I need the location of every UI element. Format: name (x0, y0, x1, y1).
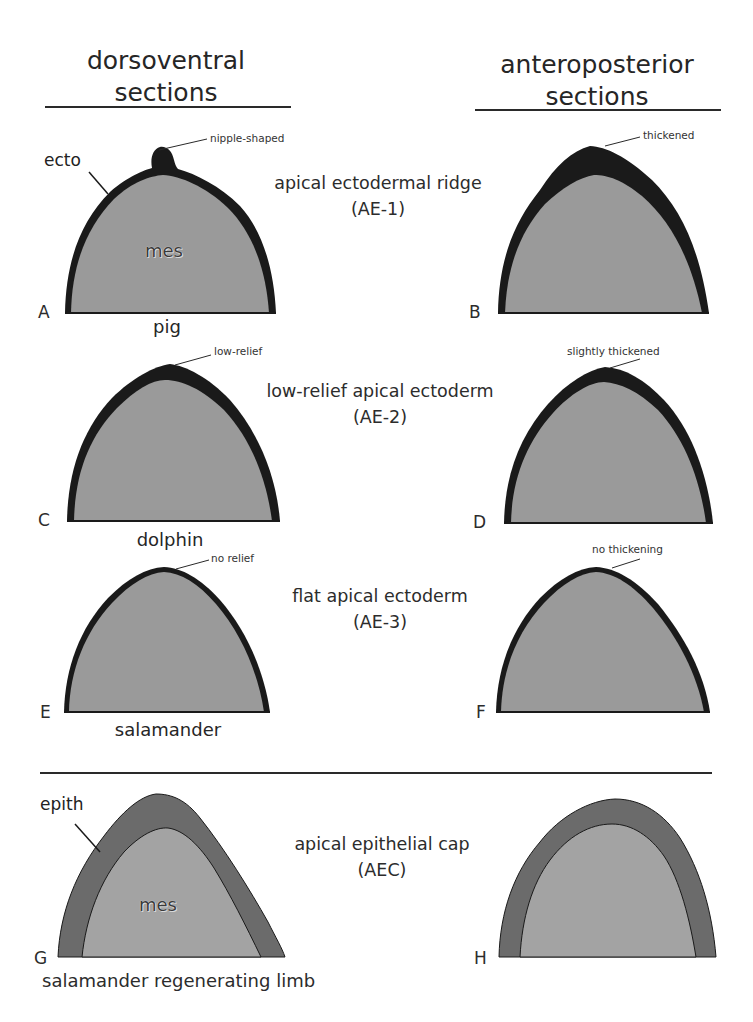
annotation-leader-epith (75, 824, 100, 852)
category-ae1-line2: (AE-1) (351, 201, 405, 219)
annotation-leader-low-relief (175, 355, 211, 365)
panel-h-limb-bud (499, 799, 716, 957)
annotation-leader-slightly-thickened (610, 359, 640, 368)
annotation-leader-thickened (605, 137, 640, 146)
category-ae3-line2: (AE-3) (353, 614, 407, 632)
annotation-nipple-shaped: nipple-shaped (210, 133, 284, 144)
limb-bud-ectoderm-figure: dorsoventral sections anteroposterior se… (0, 0, 753, 1022)
panel-letter-c: C (38, 512, 50, 529)
panel-a-limb-bud (65, 139, 276, 313)
annotation-leader-no-thickening (612, 559, 640, 568)
panel-b-limb-bud (498, 137, 709, 313)
annotation-leader-nipple (159, 139, 207, 150)
annotation-no-relief: no relief (211, 553, 254, 564)
species-label-dolphin: dolphin (137, 531, 204, 549)
category-ae2-line1: low-relief apical ectoderm (266, 383, 493, 401)
panel-letter-g: G (34, 950, 47, 967)
category-aec-line2: (AEC) (358, 862, 407, 880)
annotation-slightly-thickened: slightly thickened (567, 346, 660, 357)
header-right-line2: sections (545, 84, 648, 109)
header-left-line2: sections (114, 80, 217, 105)
annotation-thickened: thickened (643, 130, 694, 141)
tissue-label-ecto: ecto (44, 152, 81, 169)
panel-letter-b: B (469, 304, 481, 321)
category-ae3-line1: flat apical ectoderm (292, 588, 467, 606)
panel-letter-a: A (38, 304, 50, 321)
panel-f-limb-bud (496, 559, 710, 712)
panel-letter-d: D (473, 514, 486, 531)
panel-letter-h: H (474, 950, 487, 967)
panel-g-limb-bud (58, 794, 285, 957)
panel-letter-f: F (476, 704, 486, 721)
panel-d-limb-bud (504, 359, 713, 523)
tissue-label-mes-g: mes (139, 896, 177, 914)
category-aec-line1: apical epithelial cap (294, 836, 469, 854)
species-label-salamander: salamander (115, 721, 221, 739)
header-left-line1: dorsoventral (87, 48, 245, 73)
annotation-leader-ecto (89, 172, 108, 194)
category-ae1-line1: apical ectodermal ridge (274, 175, 481, 193)
panel-e-limb-bud (64, 560, 270, 712)
species-label-salamander-regenerating-limb: salamander regenerating limb (42, 972, 315, 990)
annotation-low-relief: low-relief (214, 346, 262, 357)
header-right-line1: anteroposterior (500, 52, 694, 77)
annotation-no-thickening: no thickening (592, 544, 663, 555)
tissue-label-mes-a: mes (145, 242, 183, 260)
annotation-leader-no-relief (176, 560, 209, 569)
panel-c-limb-bud (67, 355, 280, 521)
category-ae2-line2: (AE-2) (353, 409, 407, 427)
panel-letter-e: E (40, 704, 51, 721)
tissue-label-epith: epith (40, 796, 83, 813)
species-label-pig: pig (153, 318, 181, 336)
